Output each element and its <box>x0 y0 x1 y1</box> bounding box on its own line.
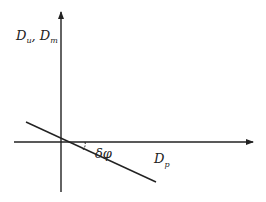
x-axis-label: Dp <box>153 151 170 169</box>
y-axis-label: Du, Dm <box>15 28 58 45</box>
angle-label: δφ <box>95 146 113 161</box>
sloped-line <box>26 122 156 182</box>
diagram-canvas: Du, Dm δφ Dp <box>0 0 266 202</box>
